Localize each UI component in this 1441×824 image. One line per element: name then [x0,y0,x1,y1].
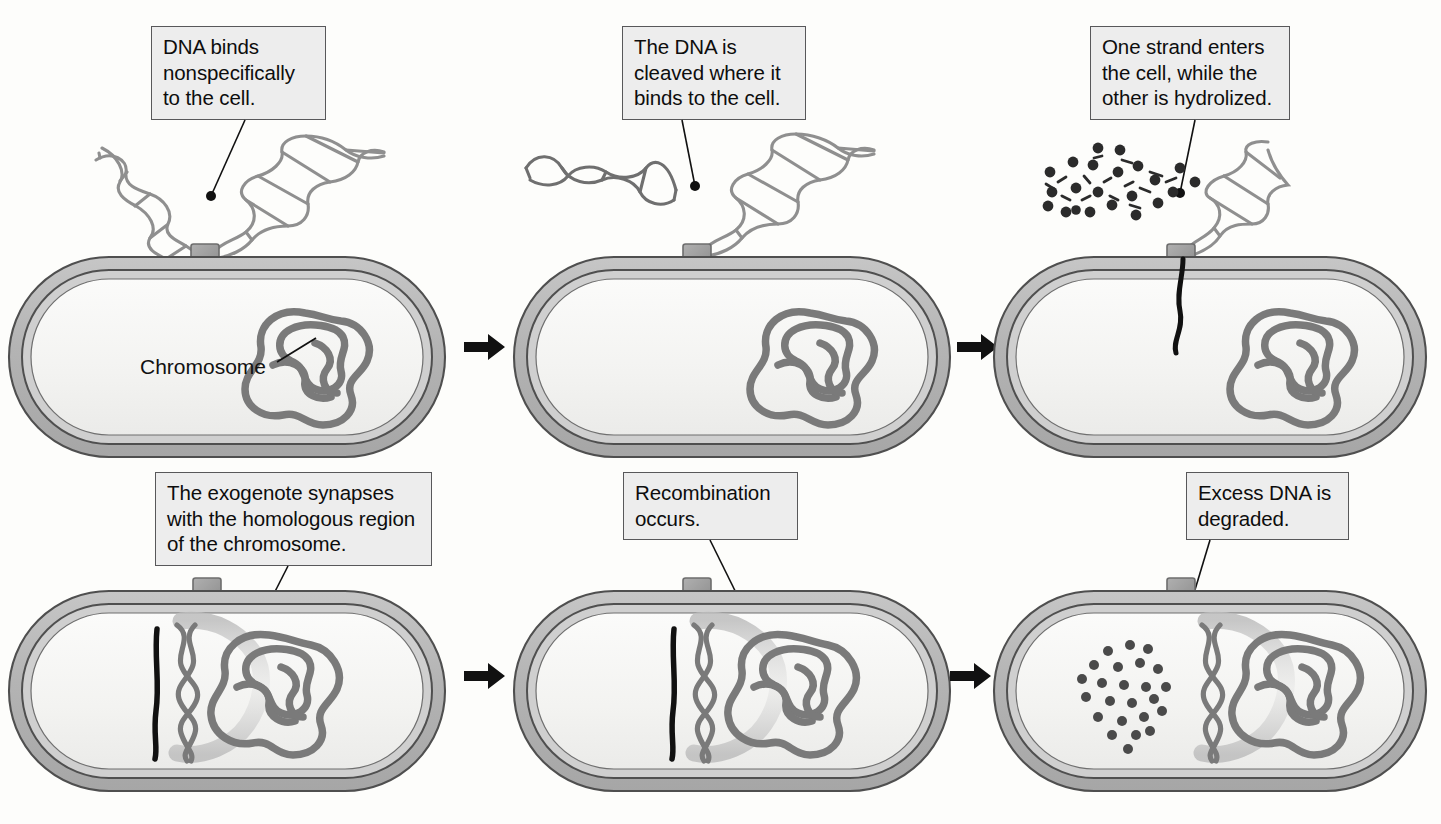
bacterium-step-3 [990,253,1435,468]
arrow-step-4-to-5 [462,660,508,694]
callout-step-5: Recombination occurs. [623,472,798,540]
arrow-step-5-to-6 [948,660,994,694]
bacterium-step-5 [510,587,960,802]
remaining-dna-step-3 [990,0,1441,270]
attached-dna-step-2 [510,0,970,270]
chromosome-label-step-1: Chromosome [140,355,266,379]
free-dna-step-1 [0,0,470,270]
panel-step-4: The exogenote synapses with the homologo… [0,455,470,824]
panel-step-2: The DNA is cleaved where it binds to the… [510,0,970,470]
callout-step-6: Excess DNA is degraded. [1186,472,1349,540]
bacterium-step-4 [5,587,455,802]
arrow-step-1-to-2 [462,331,508,365]
panel-step-5: Recombination occurs. [510,455,970,824]
callout-step-4: The exogenote synapses with the homologo… [155,472,432,566]
panel-step-1: DNA binds nonspecifically to the cell. [0,0,470,470]
bacterium-step-2 [510,253,960,468]
panel-step-3: One strand enters the cell, while the ot… [990,0,1441,470]
panel-step-6: Excess DNA is degraded. [990,455,1441,824]
bacterium-step-6 [990,587,1435,802]
figure-canvas: DNA binds nonspecifically to the cell. [0,0,1441,824]
